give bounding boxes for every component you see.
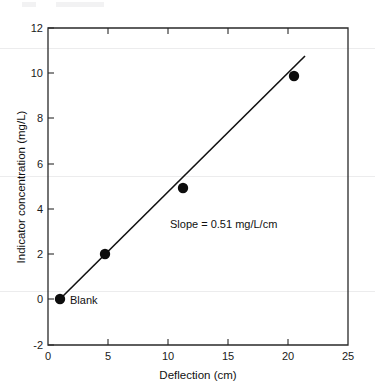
calibration-curve-figure: 12 10 8 6 4 2 0 -2 0 5 10 15 20 25 xyxy=(0,0,375,392)
y-tick-label: 6 xyxy=(37,158,43,170)
y-tick-label: 0 xyxy=(37,293,43,305)
y-tick-label: 4 xyxy=(37,203,43,215)
x-tick-label: 15 xyxy=(222,350,234,362)
x-tick-label: 5 xyxy=(105,350,111,362)
data-point xyxy=(100,249,110,259)
x-axis-tick-labels: 0 5 10 15 20 25 xyxy=(45,350,354,362)
chart-canvas: 12 10 8 6 4 2 0 -2 0 5 10 15 20 25 xyxy=(0,0,375,392)
y-axis-title: Indicator concentration (mg/L) xyxy=(15,110,27,263)
data-point xyxy=(55,294,65,304)
data-point xyxy=(289,71,299,81)
x-axis-ticks xyxy=(108,28,288,345)
data-point xyxy=(178,183,188,193)
x-tick-label: 10 xyxy=(162,350,174,362)
y-axis-tick-labels: 12 10 8 6 4 2 0 -2 xyxy=(31,22,43,351)
y-tick-label: -2 xyxy=(33,339,43,351)
y-tick-label: 8 xyxy=(37,112,43,124)
x-axis-title: Deflection (cm) xyxy=(159,369,236,381)
slope-annotation: Slope = 0.51 mg/L/cm xyxy=(170,218,277,230)
y-axis-ticks xyxy=(48,28,54,345)
blank-point-label: Blank xyxy=(70,294,98,306)
y-tick-label: 12 xyxy=(31,22,43,34)
y-tick-label: 2 xyxy=(37,248,43,260)
x-tick-label: 0 xyxy=(45,350,51,362)
y-tick-label: 10 xyxy=(31,67,43,79)
x-tick-label: 20 xyxy=(282,350,294,362)
x-tick-label: 25 xyxy=(342,350,354,362)
best-fit-line xyxy=(59,56,305,300)
